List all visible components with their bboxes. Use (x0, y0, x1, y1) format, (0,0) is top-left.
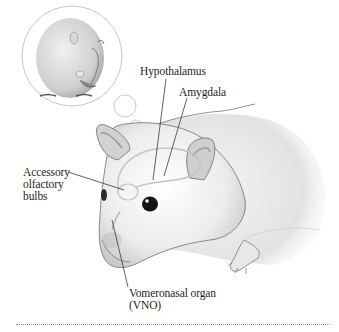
label-line: (VNO) (129, 299, 216, 311)
label-line: bulbs (23, 190, 70, 202)
label-vomeronasal-organ: Vomeronasal organ (VNO) (129, 287, 216, 311)
thought-bubble-icon (22, 6, 142, 132)
dotted-divider (16, 324, 330, 325)
label-amygdala: Amygdala (179, 86, 226, 98)
dreamed-mouse-illustration (36, 18, 104, 98)
label-hypothalamus: Hypothalamus (140, 65, 206, 77)
label-line: Vomeronasal organ (129, 287, 216, 299)
mouse-illustration (96, 104, 325, 274)
label-line: Accessory (23, 166, 70, 178)
label-line: olfactory (23, 178, 70, 190)
label-accessory-olfactory-bulbs: Accessory olfactory bulbs (23, 166, 70, 202)
